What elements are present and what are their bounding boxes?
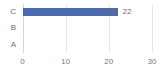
bar-chart: C B A 2 22 18 0 10 20 30 <box>0 0 165 71</box>
bar-row: 18 <box>23 4 153 20</box>
category-axis: C B A <box>0 4 20 53</box>
category-label-1: B <box>0 22 16 34</box>
x-axis: 0 10 20 30 <box>23 56 153 70</box>
gridline-30 <box>152 4 153 53</box>
category-label-2: A <box>0 39 16 51</box>
x-tick-label-1: 10 <box>61 56 70 68</box>
x-tick-label-2: 20 <box>104 56 113 68</box>
category-label-0: C <box>0 6 16 18</box>
bar-value-a: 18 <box>105 6 114 18</box>
x-tick-label-3: 30 <box>148 56 157 68</box>
bar-a[interactable] <box>23 8 101 16</box>
plot-area: 2 22 18 <box>23 4 153 53</box>
x-tick-label-0: 0 <box>20 56 24 68</box>
